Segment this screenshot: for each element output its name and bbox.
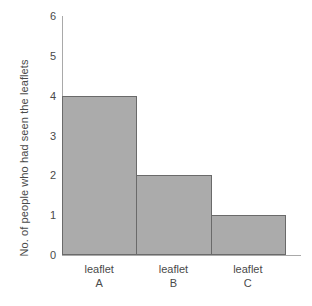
bar-chart: No. of people who had seen the leaflets …: [0, 0, 312, 306]
x-tick-label-code: C: [211, 276, 285, 290]
x-tick-label: leafletB: [136, 262, 210, 290]
x-tick-label: leafletA: [62, 262, 136, 290]
bar-c: [211, 215, 286, 255]
x-axis-tick-labels: leafletAleafletBleafletC: [62, 262, 300, 302]
y-tick-label: 3: [40, 131, 56, 142]
y-tick-label: 4: [40, 91, 56, 102]
y-axis-title: No. of people who had seen the leaflets: [16, 33, 32, 283]
x-tick-label: leafletC: [211, 262, 285, 290]
y-tick-label: 6: [40, 11, 56, 22]
bars-layer: [62, 16, 300, 255]
y-tick-label: 1: [40, 210, 56, 221]
x-tick-label-name: leaflet: [136, 262, 210, 276]
bar-b: [136, 175, 211, 255]
y-tick-label: 5: [40, 51, 56, 62]
y-tick-label: 0: [40, 250, 56, 261]
bar-a: [62, 96, 137, 255]
x-tick-label-code: B: [136, 276, 210, 290]
x-tick-label-name: leaflet: [62, 262, 136, 276]
x-axis-line: [62, 255, 301, 256]
y-tick-label: 2: [40, 170, 56, 181]
x-tick-label-name: leaflet: [211, 262, 285, 276]
y-axis-tick-labels: 0123456: [38, 0, 56, 306]
x-tick-label-code: A: [62, 276, 136, 290]
